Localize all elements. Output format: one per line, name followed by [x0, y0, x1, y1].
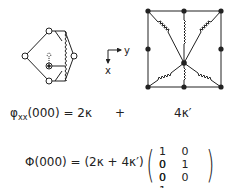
left-cluster	[22, 28, 77, 84]
matrix-close-paren: )	[206, 145, 214, 183]
axes	[108, 50, 121, 63]
atom-right	[71, 53, 77, 59]
atom-ml	[145, 46, 150, 51]
equation-phi-xx: φxx(000) = 2κ	[10, 106, 92, 122]
atom-center	[181, 60, 187, 66]
term-4kappa-prime: 4κ′	[174, 106, 191, 120]
spring-vertical	[65, 31, 67, 81]
atom-bottom	[46, 78, 52, 84]
atom-top	[46, 28, 52, 34]
spring-center-bottomright	[184, 63, 221, 87]
bond-left-bottom	[25, 56, 49, 81]
spring-center-topright	[184, 11, 221, 63]
spring-center-bottom	[184, 63, 186, 87]
right-cluster	[145, 8, 223, 89]
equation-Phi: Φ(000) = (2κ + 4κ′)	[25, 155, 144, 169]
phi-subscript: xx	[18, 113, 27, 122]
phi-symbol: φ	[10, 106, 18, 120]
plus-sign: +	[115, 106, 125, 120]
atom-tl	[145, 8, 150, 13]
atom-tm	[181, 8, 186, 13]
atom-mr	[218, 46, 223, 51]
identity-matrix: ( 1 0 0 0 1 0 0 0 1 )	[147, 145, 211, 185]
spring-center-bottomleft	[148, 63, 184, 87]
atom-center-dot	[48, 65, 51, 68]
y-axis-label: y	[124, 45, 130, 56]
x-axis-label: x	[105, 65, 111, 76]
diagonal-tie-bottom	[55, 71, 62, 81]
atom-tr	[218, 8, 223, 13]
matrix-open-paren: (	[146, 145, 154, 183]
atom-bm	[181, 84, 186, 89]
atom-bl	[145, 84, 150, 89]
atom-br	[218, 84, 223, 89]
spring-center-top	[184, 11, 186, 63]
phi-xx-lhs: (000) = 2κ	[27, 106, 92, 120]
displaced-atom-marker	[47, 53, 51, 57]
matrix-row-3: 0 0 1	[159, 171, 211, 188]
bond-left-top	[25, 31, 49, 56]
spring-center-topleft	[148, 11, 184, 63]
atom-left	[22, 53, 28, 59]
diagonal-tie-top	[55, 31, 62, 41]
